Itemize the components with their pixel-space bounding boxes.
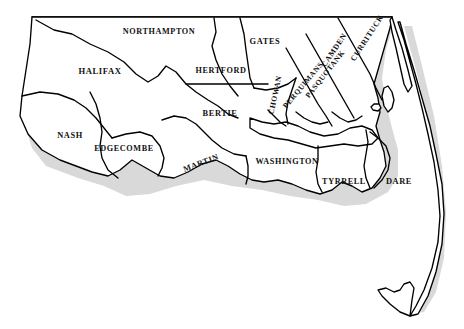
county-map: NORTHAMPTONHALIFAXNASHEDGECOMBEHERTFORDG… <box>0 0 464 329</box>
outerbanks-hatteras-hook <box>378 282 414 316</box>
small-island-a <box>371 104 381 111</box>
map-canvas <box>0 0 464 329</box>
map-outline-layer <box>20 17 444 316</box>
